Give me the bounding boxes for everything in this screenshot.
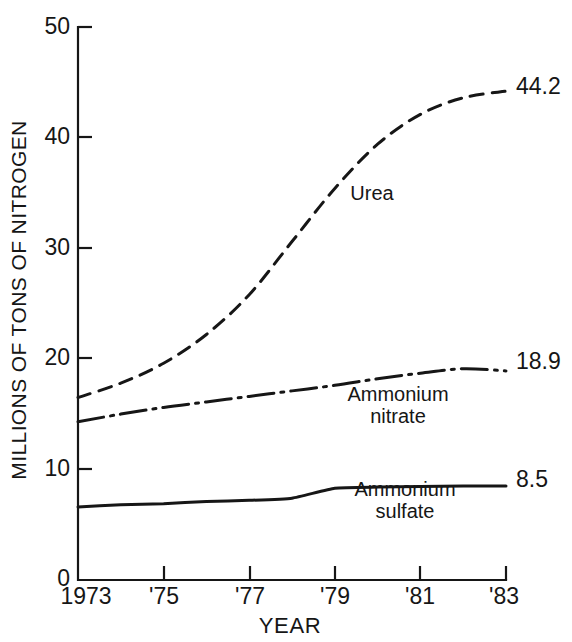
y-axis-ticks xyxy=(78,27,92,469)
x-axis-ticks xyxy=(164,566,506,580)
x-tick-label-1973: 1973 xyxy=(60,583,111,609)
line-chart-canvas: 50 40 30 20 10 0 1973 '75 '77 '79 '81 '8… xyxy=(0,0,572,642)
x-tick-label-1975: '75 xyxy=(149,583,179,609)
x-tick-label-1977: '77 xyxy=(235,583,265,609)
annotation-ammonium-2: Ammonium xyxy=(354,478,455,500)
end-value-ammonium-sulfate: 8.5 xyxy=(516,466,548,492)
y-tick-label-50: 50 xyxy=(44,13,70,39)
annotation-nitrate: nitrate xyxy=(370,405,426,427)
annotation-urea: Urea xyxy=(350,182,394,204)
y-tick-label-10: 10 xyxy=(44,455,70,481)
x-tick-label-1981: '81 xyxy=(405,583,435,609)
y-axis-title: MILLIONS OF TONS OF NITROGEN xyxy=(7,120,30,479)
x-tick-label-1983: '83 xyxy=(489,583,519,609)
annotation-sulfate: sulfate xyxy=(376,500,435,522)
y-tick-label-40: 40 xyxy=(44,123,70,149)
x-axis-title: YEAR xyxy=(259,613,321,638)
y-axis-tick-labels: 50 40 30 20 10 0 xyxy=(44,13,70,591)
end-value-ammonium-nitrate: 18.9 xyxy=(516,348,561,374)
chart-figure: 50 40 30 20 10 0 1973 '75 '77 '79 '81 '8… xyxy=(0,0,572,642)
end-value-urea: 44.2 xyxy=(516,73,561,99)
y-tick-label-30: 30 xyxy=(44,234,70,260)
x-axis-tick-labels: 1973 '75 '77 '79 '81 '83 xyxy=(60,583,519,609)
y-tick-label-20: 20 xyxy=(44,344,70,370)
series-line-urea xyxy=(78,91,506,397)
x-tick-label-1979: '79 xyxy=(320,583,350,609)
annotation-ammonium: Ammonium xyxy=(347,383,448,405)
